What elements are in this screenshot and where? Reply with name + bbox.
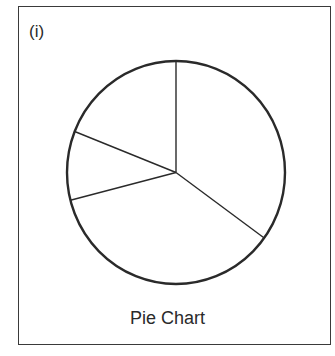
chart-caption: Pie Chart <box>0 308 335 329</box>
pie-chart <box>0 0 335 356</box>
